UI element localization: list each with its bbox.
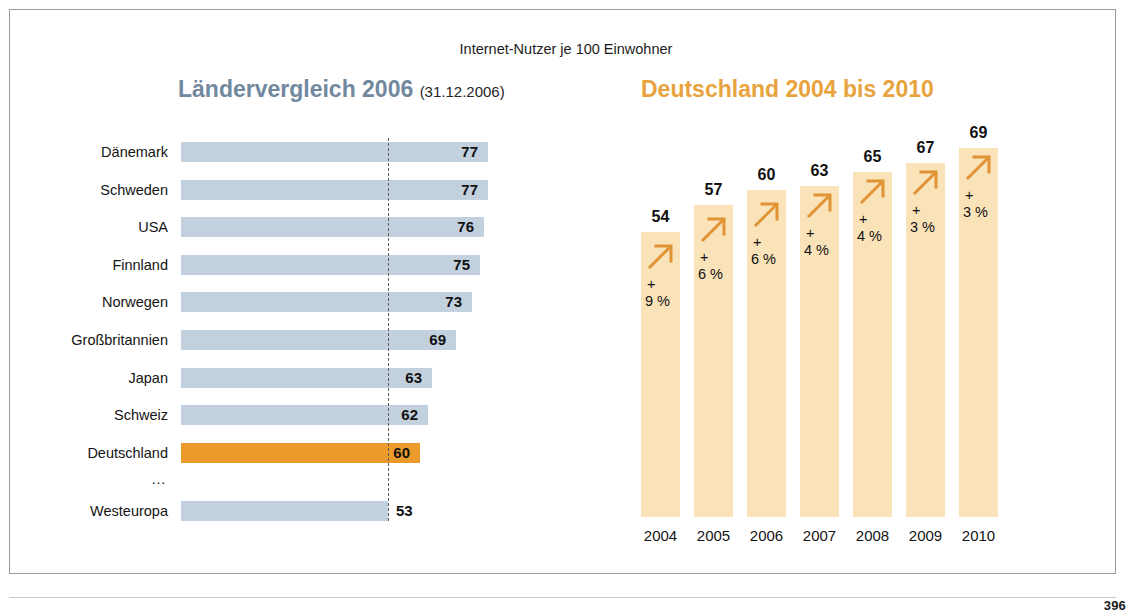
- column-value-label: 69: [952, 124, 1005, 142]
- column-growth-label: + 4 %: [800, 225, 839, 259]
- growth-value: 6 %: [694, 266, 733, 283]
- arrow-up-right-icon: [959, 152, 998, 182]
- column-value-label: 57: [687, 181, 740, 199]
- growth-sign: +: [641, 276, 680, 293]
- footer-divider: [9, 597, 1116, 598]
- column-growth-label: + 4 %: [853, 211, 892, 245]
- column-bar: [641, 232, 680, 517]
- column-2010: 69 + 3 % 2010: [959, 148, 998, 517]
- x-axis-tick-2009: 2009: [899, 527, 952, 544]
- growth-value: 4 %: [853, 228, 892, 245]
- growth-sign: +: [906, 202, 945, 219]
- growth-value: 4 %: [800, 242, 839, 259]
- growth-sign: +: [959, 187, 998, 204]
- growth-sign: +: [747, 234, 786, 251]
- column-2007: 63 + 4 % 2007: [800, 186, 839, 517]
- growth-value: 9 %: [641, 293, 680, 310]
- column-value-label: 63: [793, 162, 846, 180]
- column-2005: 57 + 6 % 2005: [694, 205, 733, 517]
- growth-value: 3 %: [959, 204, 998, 221]
- column-2006: 60 + 6 % 2006: [747, 190, 786, 517]
- arrow-up-right-icon: [906, 167, 945, 197]
- column-growth-label: + 3 %: [959, 187, 998, 221]
- arrow-up-right-icon: [694, 214, 733, 244]
- arrow-up-right-icon: [800, 190, 839, 220]
- growth-value: 3 %: [906, 219, 945, 236]
- growth-sign: +: [853, 211, 892, 228]
- growth-value: 6 %: [747, 251, 786, 268]
- arrow-up-right-icon: [747, 199, 786, 229]
- x-axis-tick-2006: 2006: [740, 527, 793, 544]
- arrow-up-right-icon: [641, 241, 680, 271]
- column-growth-label: + 3 %: [906, 202, 945, 236]
- column-value-label: 67: [899, 139, 952, 157]
- x-axis-tick-2010: 2010: [952, 527, 1005, 544]
- column-value-label: 60: [740, 166, 793, 184]
- column-2004: 54 + 9 % 2004: [641, 232, 680, 517]
- column-value-label: 65: [846, 148, 899, 166]
- x-axis-tick-2008: 2008: [846, 527, 899, 544]
- column-growth-label: + 6 %: [747, 234, 786, 268]
- column-growth-label: + 6 %: [694, 249, 733, 283]
- germany-trend-column-chart: 54 + 9 % 2004 57 + 6 % 2005: [0, 0, 1132, 616]
- page-number: 396: [1104, 598, 1126, 613]
- growth-sign: +: [800, 225, 839, 242]
- column-2008: 65 + 4 % 2008: [853, 172, 892, 517]
- slide-canvas: Internet-Nutzer je 100 Einwohner Länderv…: [0, 0, 1132, 616]
- x-axis-tick-2007: 2007: [793, 527, 846, 544]
- column-2009: 67 + 3 % 2009: [906, 163, 945, 517]
- arrow-up-right-icon: [853, 176, 892, 206]
- growth-sign: +: [694, 249, 733, 266]
- x-axis-tick-2005: 2005: [687, 527, 740, 544]
- x-axis-tick-2004: 2004: [634, 527, 687, 544]
- column-growth-label: + 9 %: [641, 276, 680, 310]
- column-value-label: 54: [634, 208, 687, 226]
